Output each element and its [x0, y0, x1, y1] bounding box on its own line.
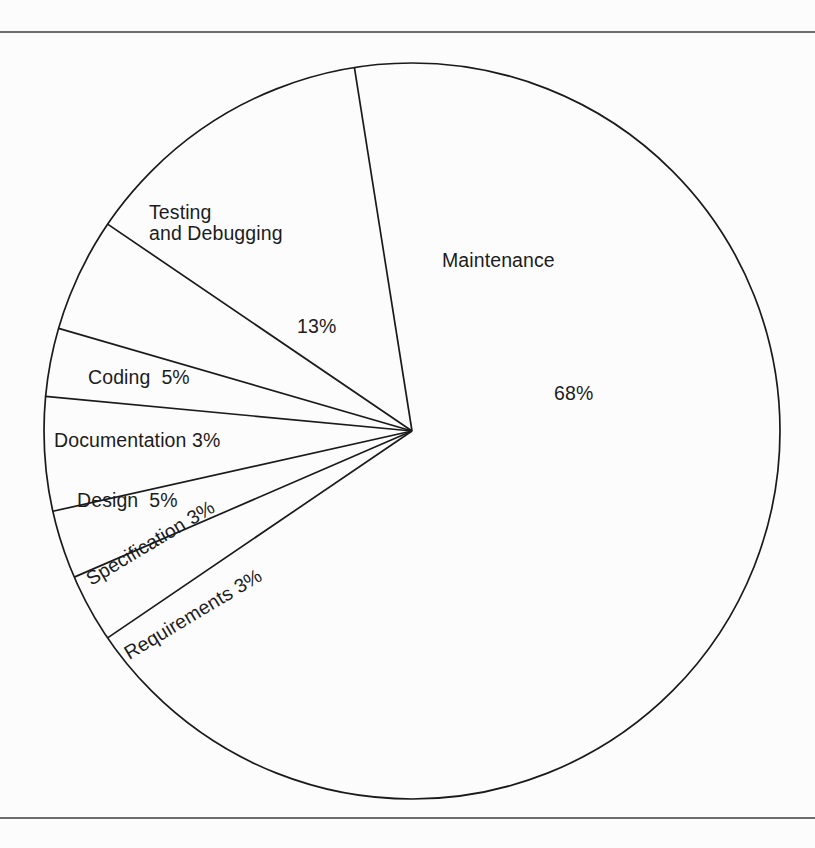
slice-label-testing-and-debugging: Testing and Debugging	[149, 202, 283, 244]
slice-label-design: Design 5%	[77, 490, 178, 511]
pie-chart: Testing and Debugging 13% Maintenance 68…	[0, 33, 815, 817]
slice-boundary-design	[46, 396, 412, 431]
slice-boundary-testing-and-debugging	[354, 68, 412, 431]
slice-value-maintenance: 68%	[554, 383, 593, 404]
bottom-rule	[0, 817, 815, 819]
slice-label-maintenance: Maintenance	[442, 250, 555, 271]
slice-value-testing-and-debugging: 13%	[297, 316, 336, 337]
slice-label-coding: Coding 5%	[88, 367, 190, 388]
slice-boundary-coding	[108, 224, 412, 431]
slice-label-documentation: Documentation 3%	[54, 430, 220, 451]
pie-svg	[0, 33, 815, 817]
figure-page: Testing and Debugging 13% Maintenance 68…	[0, 0, 815, 848]
